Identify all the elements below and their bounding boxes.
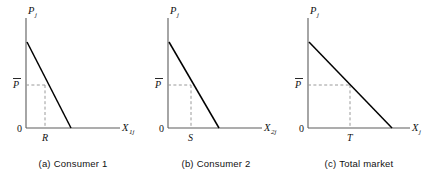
x-axis-label: X bbox=[263, 122, 271, 133]
caption-tag: (b) bbox=[182, 158, 194, 169]
caption-text: Consumer 1 bbox=[54, 158, 108, 169]
y-axis-label-subscript: j bbox=[34, 11, 37, 19]
price-axis-tick-label: P bbox=[154, 79, 161, 90]
panel-caption: (a)Consumer 1 bbox=[0, 158, 146, 169]
quantity-axis-tick-label: R bbox=[41, 132, 48, 143]
demand-curve bbox=[169, 42, 219, 128]
y-axis-label: P bbox=[169, 5, 177, 16]
panel-total-market: P j X j 0 P T (c)Total market bbox=[286, 0, 432, 185]
y-axis-label: P bbox=[27, 5, 35, 16]
origin-label: 0 bbox=[299, 123, 304, 134]
origin-label: 0 bbox=[159, 123, 164, 134]
panel-consumer-1: P j X 1j 0 P R (a)Consumer 1 bbox=[0, 0, 146, 185]
plot-area-total-market: P j X j 0 P T bbox=[286, 0, 432, 158]
x-axis-label: X bbox=[411, 122, 419, 133]
origin-label: 0 bbox=[17, 123, 22, 134]
y-axis-label-subscript: j bbox=[316, 11, 319, 19]
panel-caption: (c)Total market bbox=[286, 158, 432, 169]
panel-caption: (b)Consumer 2 bbox=[146, 158, 286, 169]
quantity-axis-tick-label: T bbox=[347, 132, 354, 143]
y-axis-label-subscript: j bbox=[176, 11, 179, 19]
caption-tag: (a) bbox=[39, 158, 51, 169]
x-axis-label-subscript: 1j bbox=[129, 128, 135, 136]
x-axis-label: X bbox=[121, 122, 129, 133]
panel-consumer-2: P j X 2j 0 P S (b)Consumer 2 bbox=[146, 0, 286, 185]
plot-area-consumer-1: P j X 1j 0 P R bbox=[0, 0, 146, 158]
plot-area-consumer-2: P j X 2j 0 P S bbox=[146, 0, 286, 158]
caption-tag: (c) bbox=[325, 158, 337, 169]
price-axis-tick-label: P bbox=[12, 79, 19, 90]
caption-text: Total market bbox=[339, 158, 393, 169]
x-axis-label-subscript: j bbox=[418, 128, 421, 136]
quantity-axis-tick-label: S bbox=[188, 132, 193, 143]
y-axis-label: P bbox=[309, 5, 317, 16]
x-axis-label-subscript: 2j bbox=[271, 128, 277, 136]
caption-text: Consumer 2 bbox=[197, 158, 251, 169]
demand-curve-figure: P j X 1j 0 P R (a)Consumer 1 P bbox=[0, 0, 432, 185]
price-axis-tick-label: P bbox=[294, 79, 301, 90]
